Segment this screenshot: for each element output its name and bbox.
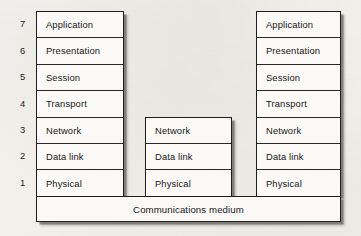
layer-box-session: Session (37, 65, 123, 91)
layer-box-data-link: Data link (37, 144, 123, 170)
layer-label: Network (155, 126, 190, 135)
layer-box-application: Application (257, 12, 340, 38)
layer-box-physical: Physical (257, 170, 340, 196)
layer-number: 2 (12, 143, 33, 169)
layer-number: 5 (12, 64, 33, 90)
layer-box-session: Session (257, 65, 340, 91)
right-host-stack: Application Presentation Session Transpo… (256, 11, 341, 196)
layer-box-transport: Transport (37, 91, 123, 117)
layer-box-network: Network (257, 118, 340, 144)
layer-label: Physical (46, 179, 82, 188)
layer-label: Presentation (266, 46, 320, 55)
layer-label: Physical (155, 179, 191, 188)
communications-medium-bar: Communications medium (36, 196, 341, 222)
layer-box-presentation: Presentation (257, 38, 340, 64)
layer-box-physical: Physical (37, 170, 123, 196)
layer-number: 4 (12, 90, 33, 116)
layer-box-data-link: Data link (146, 144, 231, 170)
layer-number: 3 (12, 117, 33, 143)
layer-box-physical: Physical (146, 170, 231, 196)
layer-label: Transport (46, 99, 87, 108)
layer-number-column: 7 6 5 4 3 2 1 (12, 11, 33, 196)
communications-medium-label: Communications medium (133, 204, 244, 215)
layer-label: Data link (155, 152, 193, 161)
layer-box-presentation: Presentation (37, 38, 123, 64)
layer-label: Presentation (46, 46, 100, 55)
left-host-stack: Application Presentation Session Transpo… (36, 11, 124, 196)
layer-number: 6 (12, 37, 33, 63)
layer-box-transport: Transport (257, 91, 340, 117)
layer-label: Physical (266, 179, 302, 188)
layer-label: Application (46, 20, 93, 29)
layer-box-network: Network (37, 118, 123, 144)
layer-label: Transport (266, 99, 307, 108)
layer-label: Data link (266, 152, 304, 161)
osi-stack-diagram: 7 6 5 4 3 2 1 Application Presentation S… (0, 0, 361, 236)
layer-number: 7 (12, 11, 33, 37)
layer-label: Session (266, 73, 300, 82)
layer-box-data-link: Data link (257, 144, 340, 170)
layer-label: Session (46, 73, 80, 82)
layer-label: Application (266, 20, 313, 29)
layer-box-network: Network (146, 118, 231, 144)
intermediate-node-stack: Network Data link Physical (145, 117, 232, 196)
layer-box-application: Application (37, 12, 123, 38)
layer-label: Data link (46, 152, 84, 161)
layer-label: Network (266, 126, 301, 135)
layer-label: Network (46, 126, 81, 135)
layer-number: 1 (12, 169, 33, 195)
